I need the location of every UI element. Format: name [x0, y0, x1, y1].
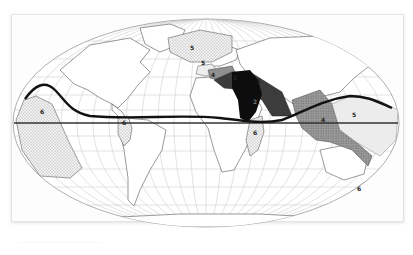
svg-text:6: 6: [122, 119, 126, 126]
svg-text:1: 1: [257, 77, 261, 84]
svg-text:6: 6: [40, 108, 44, 115]
svg-text:4: 4: [211, 71, 215, 78]
svg-text:5: 5: [190, 44, 194, 51]
svg-text:2: 2: [253, 98, 257, 105]
svg-text:5: 5: [352, 111, 356, 118]
svg-text:4: 4: [321, 116, 325, 123]
svg-text:3: 3: [233, 74, 237, 81]
caption: ........................................…: [20, 238, 160, 244]
world-map: 5 5 4 3 2 1 4 5 6 6 6 6: [0, 0, 413, 255]
svg-text:6: 6: [357, 185, 361, 192]
svg-text:6: 6: [253, 129, 257, 136]
svg-text:5: 5: [201, 59, 205, 66]
